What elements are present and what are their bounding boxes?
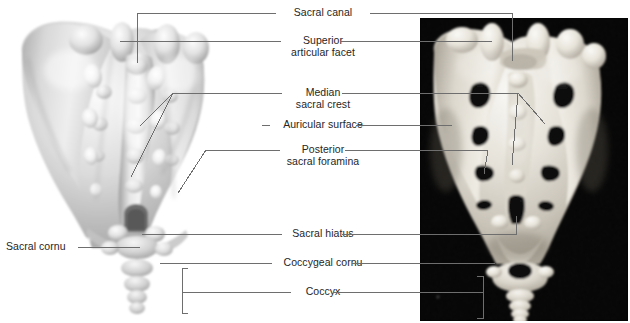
bracket-coccyx-left: [182, 268, 188, 313]
leader-sacral-canal-left: [137, 13, 276, 63]
leader-median-crest-branch-d: [512, 93, 518, 165]
leader-sacral-hiatus-right: [342, 216, 516, 234]
leader-line-layer: [0, 0, 630, 323]
leader-posterior-foramina-branch-right: [484, 150, 488, 174]
leader-posterior-foramina-branch-left: [178, 150, 206, 193]
leader-median-crest-branch-b: [131, 93, 173, 177]
leader-sacral-canal-right: [370, 13, 512, 61]
leader-median-crest-branch-c: [518, 93, 545, 124]
anatomical-figure-sacrum-posterior: Sacral canal Superior articular facet Me…: [0, 0, 630, 323]
bracket-coccyx-right: [477, 276, 483, 318]
leader-median-crest-branch-a: [140, 93, 173, 126]
